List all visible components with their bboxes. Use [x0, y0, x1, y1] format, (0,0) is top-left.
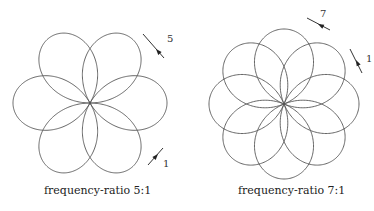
frequency-label: 1 [163, 158, 169, 169]
epicycle-curve-7-1 [209, 29, 359, 179]
epicycle-curve-5-1 [13, 33, 167, 173]
frequency-label: 5 [167, 33, 173, 44]
caption-ratio-7-1: frequency-ratio 7:1 [238, 184, 345, 197]
rotation-arrow-line [143, 34, 164, 58]
rotation-arrow-line [350, 49, 362, 73]
caption-ratio-5-1: frequency-ratio 5:1 [44, 184, 151, 197]
rotation-arrows-7-1: 71 [307, 8, 372, 73]
rotation-arrow-line [307, 18, 330, 30]
frequency-label: 1 [366, 53, 372, 64]
diagram-canvas: 51 71 [0, 0, 374, 211]
arrowhead-icon [318, 24, 324, 29]
arrowhead-icon [356, 60, 361, 66]
rotation-arrows-5-1: 51 [143, 33, 173, 169]
frequency-label: 7 [320, 8, 326, 19]
